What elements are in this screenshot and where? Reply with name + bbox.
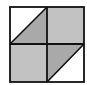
bottom-left-square <box>10 44 47 82</box>
quadrant-diagram <box>0 0 87 85</box>
top-right-square <box>47 7 84 44</box>
